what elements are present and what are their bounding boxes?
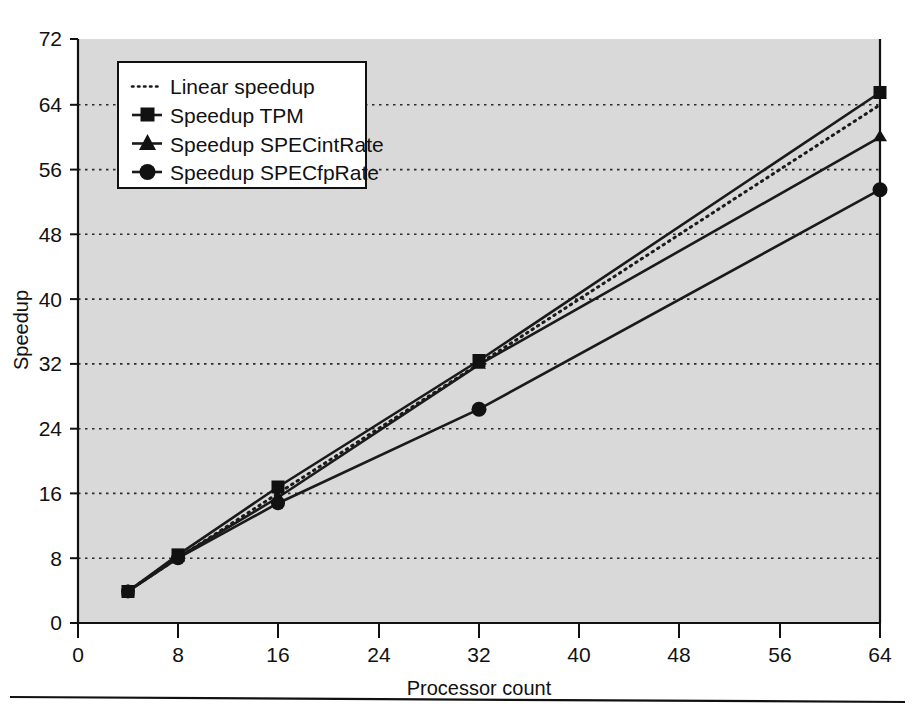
data-point-marker bbox=[171, 551, 185, 565]
y-tick-label-48: 48 bbox=[39, 223, 62, 246]
y-axis-title: Speedup bbox=[10, 290, 32, 370]
y-tick-label-0: 0 bbox=[50, 611, 62, 634]
legend-item-speedup-specintrate: Speedup SPECintRate bbox=[132, 133, 384, 156]
legend-item-label: Speedup TPM bbox=[170, 104, 304, 127]
speedup-line-chart: 72 64 56 48 40 32 24 16 8 0 0 8 16 24 32… bbox=[0, 0, 915, 715]
legend-item-speedup-specfprate: Speedup SPECfpRate bbox=[132, 161, 379, 184]
circle-marker-icon bbox=[140, 164, 156, 180]
figure-container: 72 64 56 48 40 32 24 16 8 0 0 8 16 24 32… bbox=[0, 0, 915, 715]
data-point-marker bbox=[472, 402, 487, 417]
y-tick-label-40: 40 bbox=[39, 288, 62, 311]
square-marker-icon bbox=[141, 108, 155, 122]
chart-legend: Linear speedup Speedup TPM Speedup SPECi… bbox=[118, 62, 384, 188]
y-tick-label-8: 8 bbox=[50, 547, 62, 570]
legend-item-label: Speedup SPECfpRate bbox=[170, 161, 379, 184]
data-point-marker bbox=[121, 584, 135, 598]
y-tick-label-16: 16 bbox=[39, 482, 62, 505]
x-tick-label-0: 0 bbox=[72, 643, 84, 666]
data-point-marker bbox=[271, 496, 285, 510]
x-tick-label-48: 48 bbox=[667, 643, 690, 666]
x-tick-label-16: 16 bbox=[266, 643, 289, 666]
x-tick-label-56: 56 bbox=[768, 643, 791, 666]
data-point-marker bbox=[874, 86, 887, 99]
legend-item-label: Linear speedup bbox=[170, 75, 315, 98]
legend-item-label: Speedup SPECintRate bbox=[170, 133, 384, 156]
x-axis-title: Processor count bbox=[407, 677, 552, 699]
data-point-marker bbox=[873, 182, 888, 197]
x-tick-label-24: 24 bbox=[367, 643, 391, 666]
y-tick-label-24: 24 bbox=[39, 417, 63, 440]
y-tick-label-64: 64 bbox=[39, 93, 63, 116]
y-tick-label-56: 56 bbox=[39, 158, 62, 181]
y-tick-label-72: 72 bbox=[39, 27, 62, 50]
x-tick-label-8: 8 bbox=[172, 643, 184, 666]
x-tick-label-64: 64 bbox=[868, 643, 892, 666]
y-tick-label-32: 32 bbox=[39, 352, 62, 375]
x-tick-label-40: 40 bbox=[567, 643, 590, 666]
x-tick-label-32: 32 bbox=[467, 643, 490, 666]
